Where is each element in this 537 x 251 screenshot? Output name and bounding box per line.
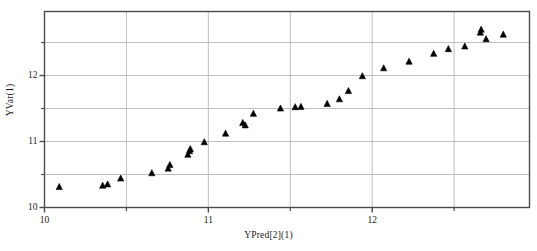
y-axis-title: YVar(1)	[5, 60, 15, 140]
grid-lines	[45, 12, 530, 208]
data-point-marker	[381, 65, 387, 71]
data-point-marker	[445, 46, 451, 52]
x-tick-label: 10	[33, 215, 57, 225]
data-point-marker	[298, 103, 304, 109]
data-point-marker	[100, 182, 106, 188]
y-tick-label: 11	[21, 136, 38, 146]
y-tick-label: 10	[21, 202, 38, 212]
data-point-marker	[167, 161, 173, 167]
data-point-marker	[222, 130, 228, 136]
data-point-marker	[483, 36, 489, 42]
scatter-plot: YPred[2](1) YVar(1) 101112101112	[0, 0, 537, 251]
data-point-marker	[345, 87, 351, 93]
data-point-marker	[500, 31, 506, 37]
data-point-marker	[292, 104, 298, 110]
x-axis-title: YPred[2](1)	[0, 230, 537, 240]
data-point-marker	[149, 170, 155, 176]
data-point-marker	[56, 184, 62, 190]
data-points	[56, 26, 506, 189]
data-point-marker	[104, 181, 110, 187]
data-point-marker	[336, 96, 342, 102]
y-tick-label: 12	[21, 70, 38, 80]
plot-frame	[45, 12, 530, 208]
data-point-marker	[118, 175, 124, 181]
data-point-marker	[324, 100, 330, 106]
x-tick-label: 12	[360, 215, 384, 225]
data-point-marker	[478, 26, 484, 32]
data-point-marker	[462, 43, 468, 49]
data-point-marker	[250, 110, 256, 116]
x-tick-label: 11	[196, 215, 220, 225]
data-point-marker	[277, 105, 283, 111]
data-point-marker	[431, 50, 437, 56]
plot-canvas	[0, 0, 537, 251]
data-point-marker	[406, 58, 412, 64]
data-point-marker	[187, 146, 193, 152]
